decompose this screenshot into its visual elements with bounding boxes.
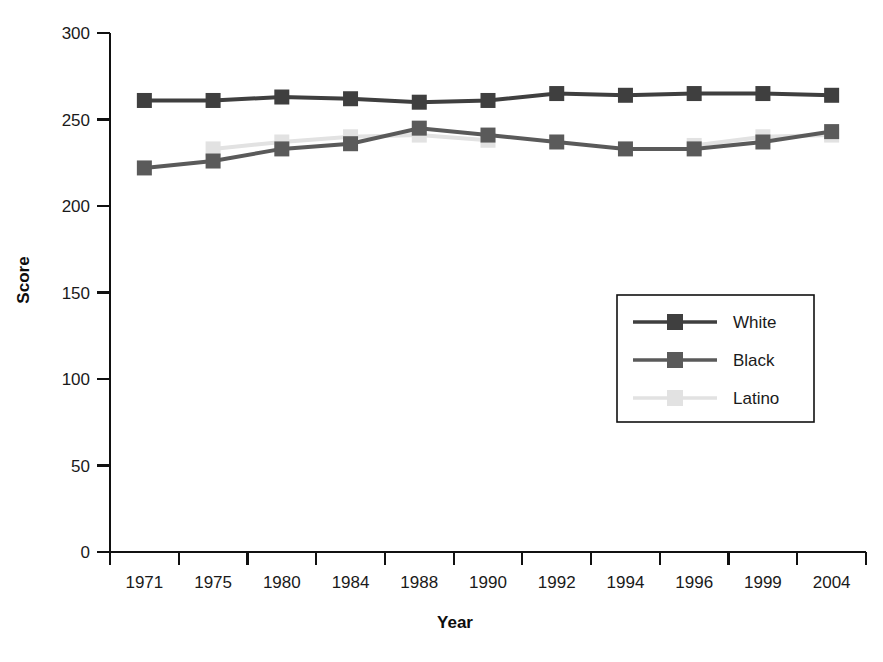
line-chart: Score Year 050100150200250300 1971197519… — [0, 0, 883, 662]
series-marker — [549, 86, 564, 101]
series-marker — [206, 154, 221, 169]
x-axis-tick-label: 1994 — [607, 573, 645, 592]
y-axis-title-text: Score — [14, 256, 33, 303]
x-axis-tick-label: 1975 — [194, 573, 232, 592]
legend-marker — [667, 352, 683, 368]
y-axis-tick-label: 150 — [62, 284, 90, 303]
y-axis-tick-label: 250 — [62, 111, 90, 130]
x-axis-tick-label: 1996 — [675, 573, 713, 592]
x-axis-tick-label: 1988 — [400, 573, 438, 592]
series-marker — [412, 95, 427, 110]
x-axis-tick-label: 2004 — [813, 573, 851, 592]
series-marker — [824, 88, 839, 103]
y-axis-tick-label: 0 — [81, 543, 90, 562]
series-marker — [687, 141, 702, 156]
x-axis-tick-label: 1984 — [332, 573, 370, 592]
series-marker — [206, 93, 221, 108]
y-axis-tick-label: 100 — [62, 370, 90, 389]
x-axis: 1971197519801984198819901992199419961999… — [110, 552, 866, 592]
legend-label: Latino — [733, 389, 779, 408]
legend-label: White — [733, 313, 776, 332]
x-axis-tick-label: 1990 — [469, 573, 507, 592]
x-axis-tick-label: 1992 — [538, 573, 576, 592]
chart-container: Score Year 050100150200250300 1971197519… — [0, 0, 883, 662]
x-axis-tick-label: 1971 — [125, 573, 163, 592]
series-marker — [412, 121, 427, 136]
series-marker — [274, 90, 289, 105]
series-marker — [618, 88, 633, 103]
series-marker — [687, 86, 702, 101]
series-marker — [137, 160, 152, 175]
y-axis: 050100150200250300 — [62, 24, 110, 562]
data-series-group — [137, 86, 839, 175]
series-marker — [755, 134, 770, 149]
series-marker — [824, 124, 839, 139]
chart-legend: WhiteBlackLatino — [617, 295, 814, 422]
series-black — [137, 121, 839, 176]
series-marker — [343, 91, 358, 106]
legend-label: Black — [733, 351, 775, 370]
y-axis-tick-label: 300 — [62, 24, 90, 43]
series-marker — [618, 141, 633, 156]
series-marker — [137, 93, 152, 108]
series-marker — [274, 141, 289, 156]
series-marker — [481, 128, 496, 143]
y-axis-tick-label: 200 — [62, 197, 90, 216]
series-marker — [755, 86, 770, 101]
x-axis-tick-label: 1999 — [744, 573, 782, 592]
x-axis-tick-label: 1980 — [263, 573, 301, 592]
x-axis-title-text: Year — [437, 613, 473, 632]
series-marker — [481, 93, 496, 108]
y-axis-title: Score — [14, 256, 33, 303]
series-white — [137, 86, 839, 110]
y-axis-tick-label: 50 — [71, 457, 90, 476]
series-marker — [549, 134, 564, 149]
series-marker — [343, 136, 358, 151]
legend-marker — [667, 390, 683, 406]
legend-marker — [667, 314, 683, 330]
